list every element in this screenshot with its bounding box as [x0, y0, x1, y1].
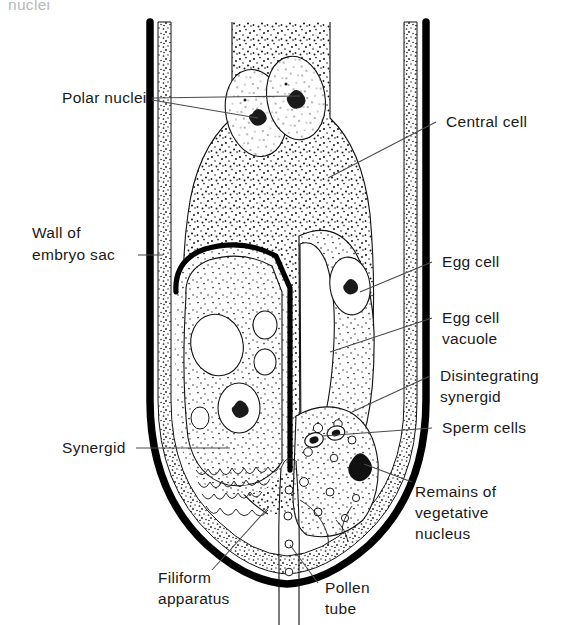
label-filiform-apparatus-line1: Filiform: [158, 569, 211, 586]
label-egg-cell-vacuole-line1: Egg cell: [442, 309, 500, 326]
label-polar-nuclei: Polar nuclei: [62, 89, 147, 106]
label-wall-of-embryo-sac-line1: Wall of: [32, 224, 81, 241]
vacuole: [352, 494, 359, 501]
tube-vacuole: [284, 512, 292, 520]
label-remains-line3: nucleus: [415, 525, 471, 542]
label-disintegrating-synergid-line1: Disintegrating: [440, 367, 539, 384]
label-remains-line2: vegetative: [415, 504, 489, 521]
synergid-vacuole: [254, 349, 276, 375]
cut-caption-top: nuclei: [8, 0, 50, 13]
label-egg-cell-vacuole-line2: vacuole: [442, 330, 498, 347]
diagram-canvas: nuclei Polar nuclei Central cell Wall of…: [0, 0, 575, 625]
label-egg-cell: Egg cell: [442, 253, 500, 270]
label-sperm-cells: Sperm cells: [442, 419, 526, 436]
synergid-vacuole: [191, 407, 209, 429]
synergid-vacuole: [253, 311, 277, 339]
label-remains-line1: Remains of: [415, 483, 497, 500]
vacuole: [300, 478, 309, 487]
vacuole: [326, 488, 334, 496]
vacuole: [348, 436, 356, 444]
vacuole: [330, 454, 338, 462]
vacuole: [304, 448, 313, 457]
embryo-sac-figure: nuclei Polar nuclei Central cell Wall of…: [0, 0, 575, 625]
label-wall-of-embryo-sac-line2: embryo sac: [32, 246, 115, 263]
label-pollen-tube-line2: tube: [325, 600, 356, 617]
tube-vacuole: [285, 486, 293, 494]
tube-vacuole: [285, 568, 293, 576]
label-disintegrating-synergid-line2: synergid: [440, 388, 501, 405]
label-synergid: Synergid: [62, 439, 126, 456]
label-filiform-apparatus-line2: apparatus: [158, 590, 230, 607]
persistent-synergid: [175, 245, 290, 516]
label-central-cell: Central cell: [446, 113, 527, 130]
label-pollen-tube-line1: Pollen: [325, 579, 370, 596]
vacuole: [313, 423, 322, 432]
synergid-nucleus: [218, 383, 260, 433]
